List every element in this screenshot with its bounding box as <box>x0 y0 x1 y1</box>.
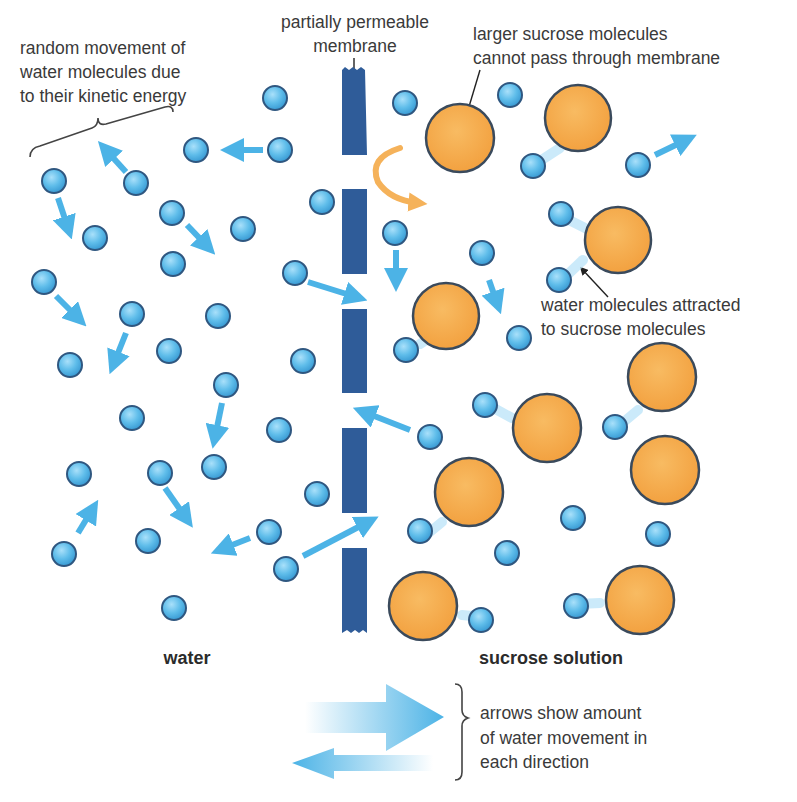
membrane-segment <box>342 67 367 155</box>
svg-text:membrane: membrane <box>313 36 397 56</box>
partially-permeable-membrane <box>342 67 367 633</box>
svg-text:to sucrose molecules: to sucrose molecules <box>541 319 706 339</box>
movement-arrow <box>364 412 410 430</box>
water-molecule <box>547 268 571 292</box>
sucrose-molecule <box>389 572 457 640</box>
movement-arrow <box>58 198 68 228</box>
sucrose-molecule <box>513 394 581 462</box>
water-molecule <box>257 520 281 544</box>
water-molecule <box>283 261 307 285</box>
water-molecule <box>268 138 292 162</box>
svg-text:cannot pass through membrane: cannot pass through membrane <box>473 48 720 68</box>
movement-arrow <box>106 150 126 172</box>
movement-arrow <box>114 333 126 363</box>
water-molecule <box>383 221 407 245</box>
water-molecule <box>470 241 494 265</box>
movement-arrow <box>655 140 686 155</box>
water-molecule <box>263 86 287 110</box>
membrane-segment <box>342 309 367 393</box>
movement-arrow <box>215 403 222 437</box>
water-molecule <box>161 252 185 276</box>
movement-arrow <box>78 510 92 533</box>
water-molecule <box>120 406 144 430</box>
water-molecule <box>58 353 82 377</box>
movement-arrow <box>489 280 497 303</box>
svg-text:random movement of: random movement of <box>20 38 185 58</box>
sucrose-blocked-label: larger sucrose molecules cannot pass thr… <box>473 24 720 68</box>
svg-text:to their kinetic energy: to their kinetic energy <box>20 86 187 106</box>
water-molecule <box>160 201 184 225</box>
water-molecule <box>267 418 291 442</box>
legend-label: arrows show amount of water movement in … <box>480 703 647 772</box>
water-molecule <box>42 169 66 193</box>
sucrose-molecule <box>628 343 696 411</box>
water-molecule <box>394 338 418 362</box>
water-molecule <box>214 373 238 397</box>
movement-arrow <box>308 282 356 297</box>
water-molecule <box>148 461 172 485</box>
water-molecule <box>305 482 329 506</box>
movement-arrow <box>165 488 186 518</box>
legend-brace <box>455 684 468 780</box>
water-molecule <box>561 506 585 530</box>
water-molecule <box>507 326 531 350</box>
sucrose-region-label: sucrose solution <box>479 648 623 668</box>
water-molecule <box>136 529 160 553</box>
water-attracted-pointer <box>581 268 608 297</box>
water-molecule <box>83 226 107 250</box>
sucrose-molecule <box>631 436 699 504</box>
movement-arrow <box>222 538 250 549</box>
sucrose-molecule <box>435 458 503 526</box>
water-molecule <box>291 349 315 373</box>
water-molecule <box>495 541 519 565</box>
water-molecule <box>418 425 442 449</box>
membrane-segment <box>342 428 367 513</box>
water-region-label: water <box>162 648 210 668</box>
svg-text:partially permeable: partially permeable <box>281 12 429 32</box>
blocked-return-arrow <box>376 148 418 203</box>
water-molecule <box>498 83 522 107</box>
water-molecule <box>274 557 298 581</box>
water-molecule <box>626 153 650 177</box>
water-molecule <box>202 455 226 479</box>
membrane-segment <box>342 189 367 274</box>
water-molecule <box>231 217 255 241</box>
water-molecule <box>310 190 334 214</box>
sucrose-molecule <box>585 207 651 273</box>
large-right-arrow-icon <box>305 684 444 751</box>
sucrose-molecule <box>545 85 611 151</box>
water-molecule <box>564 594 588 618</box>
membrane-label: partially permeable membrane <box>281 12 429 56</box>
membrane-segment <box>342 548 367 633</box>
water-movement-arrows <box>56 140 686 556</box>
water-molecule <box>67 462 91 486</box>
svg-text:larger sucrose molecules: larger sucrose molecules <box>473 24 668 44</box>
water-molecule <box>52 542 76 566</box>
svg-text:arrows show amount: arrows show amount <box>480 703 642 723</box>
sucrose-molecule <box>426 104 494 172</box>
svg-text:each direction: each direction <box>480 752 589 772</box>
water-molecule <box>603 415 627 439</box>
water-molecule <box>469 608 493 632</box>
water-molecule <box>162 596 186 620</box>
water-molecule <box>120 302 144 326</box>
svg-text:water molecules attracted: water molecules attracted <box>540 295 740 315</box>
legend-arrows <box>292 684 444 779</box>
water-molecule <box>549 202 573 226</box>
water-molecule <box>473 393 497 417</box>
sucrose-molecule <box>413 283 479 349</box>
water-molecule <box>521 154 545 178</box>
water-molecule <box>646 522 670 546</box>
small-left-arrow-icon <box>292 748 433 779</box>
sucrose-molecule <box>606 566 674 634</box>
water-molecule <box>408 519 432 543</box>
svg-text:of water movement in: of water movement in <box>480 728 647 748</box>
water-molecule <box>157 339 181 363</box>
random-movement-label: random movement of water molecules due t… <box>19 38 187 106</box>
water-molecule <box>184 138 208 162</box>
svg-text:water molecules due: water molecules due <box>19 62 181 82</box>
osmosis-diagram: random movement of water molecules due t… <box>0 0 797 802</box>
water-molecule <box>32 270 56 294</box>
water-molecule <box>206 304 230 328</box>
water-molecule <box>124 171 148 195</box>
